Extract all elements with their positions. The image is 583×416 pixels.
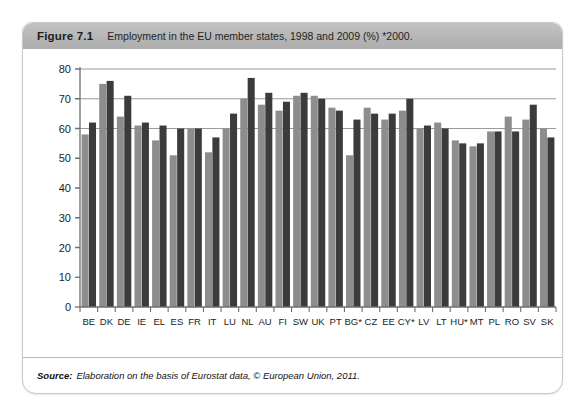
figure-header: Figure 7.1 Employment in the EU member s… bbox=[23, 23, 562, 49]
figure-source-footer: Source: Elaboration on the basis of Euro… bbox=[23, 357, 562, 393]
bar-ES-1998[interactable] bbox=[170, 155, 177, 307]
bar-SW-2009[interactable] bbox=[301, 93, 308, 307]
bar-LV-1998[interactable] bbox=[417, 129, 424, 308]
x-tick-label: HU* bbox=[450, 316, 468, 327]
bar-BG-1998[interactable] bbox=[346, 155, 353, 307]
bar-PT-2009[interactable] bbox=[336, 111, 343, 307]
bar-FI-2009[interactable] bbox=[283, 102, 290, 307]
bar-CZ-2009[interactable] bbox=[371, 114, 378, 307]
y-axis-group: 01020304050607080 bbox=[59, 63, 80, 313]
bar-LT-2009[interactable] bbox=[442, 129, 449, 308]
x-tick-label: RO bbox=[505, 316, 519, 327]
y-tick-label: 0 bbox=[65, 301, 71, 313]
bar-IT-2009[interactable] bbox=[212, 137, 219, 307]
x-tick-label: BE bbox=[82, 316, 95, 327]
x-tick-label: LT bbox=[436, 316, 447, 327]
bar-ES-2009[interactable] bbox=[177, 129, 184, 308]
bar-DK-1998[interactable] bbox=[99, 84, 106, 307]
bar-NL-2009[interactable] bbox=[248, 78, 255, 307]
bar-LU-2009[interactable] bbox=[230, 114, 237, 307]
x-tick-label: AU bbox=[259, 316, 272, 327]
x-axis-group: BEDKDEIEELESFRITLUNLAUFISWUKPTBG*CZEECY*… bbox=[80, 307, 556, 327]
bar-EL-1998[interactable] bbox=[152, 140, 159, 307]
x-tick-label: LV bbox=[418, 316, 430, 327]
bar-FR-2009[interactable] bbox=[195, 129, 202, 308]
source-text: Elaboration on the basis of Eurostat dat… bbox=[76, 370, 360, 381]
bar-SW-1998[interactable] bbox=[293, 96, 300, 307]
figure-card: Figure 7.1 Employment in the EU member s… bbox=[22, 22, 563, 394]
bar-SV-2009[interactable] bbox=[530, 105, 537, 307]
bar-BE-2009[interactable] bbox=[89, 123, 96, 307]
bar-RO-2009[interactable] bbox=[512, 131, 519, 307]
bar-UK-2009[interactable] bbox=[318, 99, 325, 307]
bar-DE-2009[interactable] bbox=[124, 96, 131, 307]
x-tick-label: IE bbox=[137, 316, 146, 327]
bar-LU-1998[interactable] bbox=[223, 129, 230, 308]
figure-title: Employment in the EU member states, 1998… bbox=[107, 30, 412, 42]
y-tick-label: 40 bbox=[59, 182, 71, 194]
figure-number: Figure 7.1 bbox=[37, 30, 93, 42]
bar-EE-1998[interactable] bbox=[381, 120, 388, 307]
bar-NL-1998[interactable] bbox=[240, 99, 247, 307]
bar-SK-1998[interactable] bbox=[540, 129, 547, 308]
y-tick-label: 80 bbox=[59, 63, 71, 75]
bar-IE-2009[interactable] bbox=[142, 123, 149, 307]
bar-EL-2009[interactable] bbox=[160, 126, 167, 307]
x-tick-label: PT bbox=[330, 316, 342, 327]
x-tick-label: EL bbox=[154, 316, 166, 327]
y-tick-label: 30 bbox=[59, 212, 71, 224]
x-tick-label: NL bbox=[241, 316, 253, 327]
x-tick-label: CY* bbox=[398, 316, 415, 327]
x-tick-label: FI bbox=[279, 316, 287, 327]
bar-FI-1998[interactable] bbox=[276, 111, 283, 307]
bar-EE-2009[interactable] bbox=[389, 114, 396, 307]
y-tick-label: 50 bbox=[59, 152, 71, 164]
x-tick-label: SK bbox=[541, 316, 554, 327]
x-tick-label: MT bbox=[470, 316, 484, 327]
bar-HU-1998[interactable] bbox=[452, 140, 459, 307]
chart-plot-area: 01020304050607080 BEDKDEIEELESFRITLUNLAU… bbox=[23, 49, 563, 359]
bar-CY-1998[interactable] bbox=[399, 111, 406, 307]
bar-SK-2009[interactable] bbox=[547, 137, 554, 307]
bar-HU-2009[interactable] bbox=[459, 143, 466, 307]
y-tick-label: 20 bbox=[59, 242, 71, 254]
bar-AU-2009[interactable] bbox=[265, 93, 272, 307]
bar-BE-1998[interactable] bbox=[82, 134, 89, 307]
bar-LT-1998[interactable] bbox=[434, 123, 441, 307]
x-tick-label: ES bbox=[171, 316, 184, 327]
x-tick-label: SW bbox=[293, 316, 308, 327]
bar-CZ-1998[interactable] bbox=[364, 108, 371, 307]
y-tick-label: 10 bbox=[59, 271, 71, 283]
bars-group bbox=[82, 78, 555, 307]
x-tick-label: DK bbox=[100, 316, 114, 327]
bar-PL-1998[interactable] bbox=[487, 131, 494, 307]
bar-DK-2009[interactable] bbox=[107, 81, 114, 307]
x-tick-label: CZ bbox=[365, 316, 378, 327]
bar-SV-1998[interactable] bbox=[522, 120, 529, 307]
gridlines-group bbox=[80, 69, 556, 129]
x-tick-label: PL bbox=[488, 316, 500, 327]
bar-LV-2009[interactable] bbox=[424, 126, 431, 307]
bar-CY-2009[interactable] bbox=[406, 99, 413, 307]
bar-IE-1998[interactable] bbox=[134, 126, 141, 307]
x-tick-label: FR bbox=[188, 316, 201, 327]
x-tick-label: BG* bbox=[345, 316, 363, 327]
x-tick-label: IT bbox=[208, 316, 217, 327]
bar-AU-1998[interactable] bbox=[258, 105, 265, 307]
bar-IT-1998[interactable] bbox=[205, 152, 212, 307]
bar-UK-1998[interactable] bbox=[311, 96, 318, 307]
y-tick-label: 60 bbox=[59, 123, 71, 135]
bar-MT-2009[interactable] bbox=[477, 143, 484, 307]
bar-PT-1998[interactable] bbox=[328, 108, 335, 307]
bar-PL-2009[interactable] bbox=[494, 131, 501, 307]
bar-FR-1998[interactable] bbox=[187, 129, 194, 308]
y-tick-label: 70 bbox=[59, 93, 71, 105]
source-label: Source: bbox=[37, 370, 72, 381]
bar-MT-1998[interactable] bbox=[469, 146, 476, 307]
bar-DE-1998[interactable] bbox=[117, 117, 124, 307]
bar-BG-2009[interactable] bbox=[353, 120, 360, 307]
bar-chart: 01020304050607080 BEDKDEIEELESFRITLUNLAU… bbox=[23, 49, 563, 359]
bar-RO-1998[interactable] bbox=[505, 117, 512, 307]
x-tick-label: LU bbox=[224, 316, 236, 327]
x-tick-label: EE bbox=[382, 316, 395, 327]
